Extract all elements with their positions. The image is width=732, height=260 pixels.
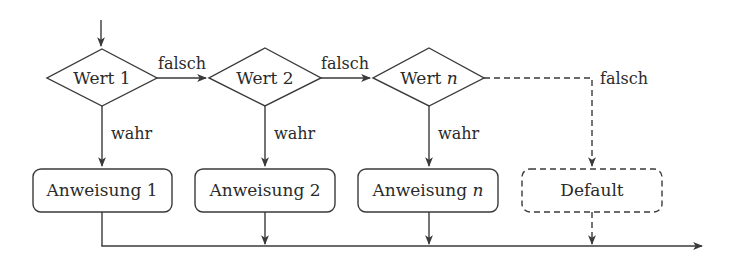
decision-label: Wert n <box>400 68 457 88</box>
decision-wert-1: Wert 1 <box>47 49 157 106</box>
statement-label: Default <box>560 180 624 200</box>
edge-label-wahr-1: wahr <box>111 124 153 143</box>
edge-label-falsch-n: falsch <box>600 69 648 88</box>
decision-wert-n: Wert n <box>373 48 484 106</box>
edge-label-wahr-2: wahr <box>274 124 316 143</box>
decision-wert-2: Wert 2 <box>209 48 321 106</box>
edge-label-wahr-n: wahr <box>438 124 480 143</box>
edge-false-n-dashed <box>484 78 592 166</box>
flowchart-canvas: Wert 1 Wert 2 Wert n falsch falsch falsc… <box>0 0 732 260</box>
statement-label: Anweisung n <box>371 180 483 200</box>
decision-label: Wert 2 <box>236 68 293 88</box>
decision-label: Wert 1 <box>73 68 130 88</box>
edge-label-falsch-2: falsch <box>321 54 369 73</box>
statement-label: Anweisung 1 <box>46 180 158 200</box>
statement-anweisung-1: Anweisung 1 <box>33 169 172 212</box>
statement-anweisung-2: Anweisung 2 <box>195 169 335 212</box>
edge-label-falsch-1: falsch <box>158 54 206 73</box>
statement-anweisung-n: Anweisung n <box>358 169 498 212</box>
statement-default: Default <box>522 169 662 212</box>
statement-label: Anweisung 2 <box>209 180 321 200</box>
flowchart-svg: Wert 1 Wert 2 Wert n falsch falsch falsc… <box>0 0 732 260</box>
